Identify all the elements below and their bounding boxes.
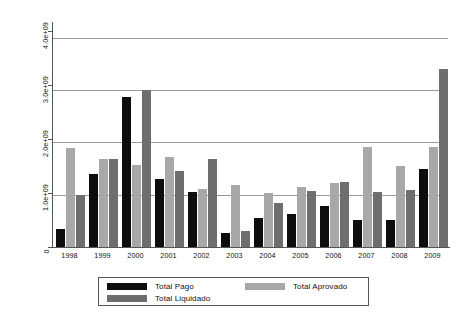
bar-group-2002 xyxy=(188,22,218,247)
bar-pago-2004 xyxy=(254,218,263,247)
bar-aprovado-2000 xyxy=(132,165,141,247)
bar-group-2007 xyxy=(353,22,383,247)
bar-aprovado-2006 xyxy=(330,183,339,247)
bar-pago-2005 xyxy=(287,214,296,247)
legend-label-total-aprovado: Total Aprovado xyxy=(293,282,347,291)
bar-pago-2008 xyxy=(386,220,395,247)
bar-group-1999 xyxy=(89,22,119,247)
bar-pago-1999 xyxy=(89,174,98,247)
bar-pago-2003 xyxy=(221,233,230,247)
bar-liquidado-2006 xyxy=(340,182,349,247)
bar-liquidado-2005 xyxy=(307,191,316,247)
bar-pago-2001 xyxy=(155,179,164,247)
bar-group-2009 xyxy=(419,22,449,247)
bar-aprovado-2002 xyxy=(198,189,207,247)
legend-label-total-liquidado: Total Liquidado xyxy=(155,294,210,303)
x-axis-line xyxy=(52,247,450,248)
legend-swatch-total-aprovado xyxy=(245,283,285,290)
legend-item-total-liquidado: Total Liquidado xyxy=(107,293,210,304)
y-tick-label-3e9: 3.0e+09 xyxy=(42,76,51,103)
bar-liquidado-2003 xyxy=(241,231,250,247)
bar-pago-2007 xyxy=(353,220,362,247)
bar-chart-figure: 0 1.0e+09 2.0e+09 3.0e+09 4.0e+09 199819… xyxy=(0,0,456,321)
bar-pago-2009 xyxy=(419,169,428,247)
bar-liquidado-2009 xyxy=(439,69,448,247)
bar-aprovado-2003 xyxy=(231,185,240,247)
bar-aprovado-2007 xyxy=(363,147,372,247)
bar-group-2004 xyxy=(254,22,284,247)
bar-pago-2006 xyxy=(320,206,329,247)
bar-group-2000 xyxy=(122,22,152,247)
bar-pago-1998 xyxy=(56,229,65,247)
bar-aprovado-2001 xyxy=(165,157,174,247)
bar-liquidado-2001 xyxy=(175,171,184,247)
bar-aprovado-1998 xyxy=(66,148,75,247)
bar-aprovado-2008 xyxy=(396,166,405,247)
bar-pago-2000 xyxy=(122,97,131,247)
legend-label-total-pago: Total Pago xyxy=(155,282,194,291)
bar-group-2001 xyxy=(155,22,185,247)
legend-item-total-pago: Total Pago xyxy=(107,281,210,292)
bar-aprovado-2004 xyxy=(264,193,273,247)
bar-group-2003 xyxy=(221,22,251,247)
bar-liquidado-1999 xyxy=(109,159,118,247)
legend-column-right: Total Aprovado xyxy=(245,281,347,292)
legend-item-total-aprovado: Total Aprovado xyxy=(245,281,347,292)
y-axis: 0 1.0e+09 2.0e+09 3.0e+09 4.0e+09 xyxy=(0,0,52,321)
legend-column-left: Total Pago Total Liquidado xyxy=(107,281,210,304)
x-tick-label-2009: 2009 xyxy=(413,251,453,260)
bar-group-1998 xyxy=(56,22,86,247)
bar-pago-2002 xyxy=(188,192,197,247)
bar-group-2005 xyxy=(287,22,317,247)
bar-liquidado-2007 xyxy=(373,192,382,247)
y-tick-label-4e9: 4.0e+09 xyxy=(42,22,51,49)
bar-liquidado-2000 xyxy=(142,90,151,247)
bar-liquidado-2002 xyxy=(208,159,217,247)
bar-group-2006 xyxy=(320,22,350,247)
bar-group-2008 xyxy=(386,22,416,247)
legend-swatch-total-pago xyxy=(107,283,147,290)
bar-aprovado-2005 xyxy=(297,187,306,247)
y-tick-label-2e9: 2.0e+09 xyxy=(42,130,51,157)
chart-legend: Total Pago Total Liquidado Total Aprovad… xyxy=(98,277,369,306)
bar-liquidado-2004 xyxy=(274,203,283,247)
bar-aprovado-1999 xyxy=(99,159,108,247)
y-tick-label-1e9: 1.0e+09 xyxy=(42,184,51,211)
bar-liquidado-1998 xyxy=(76,195,85,247)
legend-swatch-total-liquidado xyxy=(107,295,147,302)
bar-aprovado-2009 xyxy=(429,147,438,247)
plot-area xyxy=(52,22,448,247)
bar-liquidado-2008 xyxy=(406,190,415,247)
